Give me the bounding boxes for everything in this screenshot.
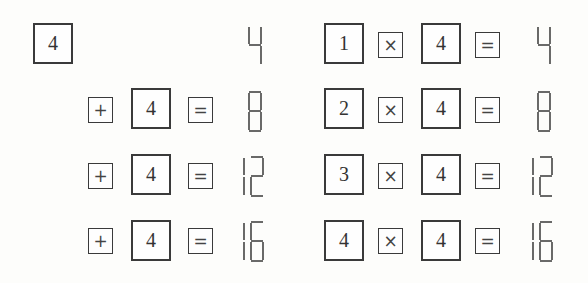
display-result-8: [244, 90, 268, 134]
seven-segment-digit-8: [538, 92, 550, 131]
key-times[interactable]: ×: [378, 32, 403, 58]
equals-icon: =: [480, 35, 494, 55]
key-times[interactable]: ×: [378, 97, 403, 123]
seven-segment-number-16: [533, 222, 552, 261]
display-result-8: [533, 90, 557, 134]
key-label: 4: [146, 97, 156, 120]
key-4[interactable]: 4: [421, 88, 461, 129]
key-4[interactable]: 4: [421, 23, 461, 64]
key-equals[interactable]: =: [188, 228, 213, 254]
key-multiplier[interactable]: 3: [324, 154, 364, 195]
key-plus[interactable]: +: [88, 163, 113, 189]
seven-segment-number-12: [533, 157, 552, 196]
seven-segment-digit-4: [538, 27, 550, 64]
equals-icon: =: [480, 166, 494, 186]
equals-icon: =: [480, 100, 494, 120]
plus-icon: +: [93, 166, 107, 186]
key-equals[interactable]: =: [188, 163, 213, 189]
key-times[interactable]: ×: [378, 228, 403, 254]
times-icon: ×: [383, 100, 397, 120]
times-icon: ×: [383, 35, 397, 55]
key-4[interactable]: 4: [421, 220, 461, 261]
times-icon: ×: [383, 231, 397, 251]
display-result-4: [244, 24, 268, 68]
plus-icon: +: [93, 231, 107, 251]
equals-icon: =: [193, 100, 207, 120]
display-result-16: [240, 220, 270, 264]
key-4[interactable]: 4: [131, 88, 171, 129]
display-result-16: [529, 220, 559, 264]
key-label: 4: [436, 97, 446, 120]
key-label: 3: [339, 163, 349, 186]
key-times[interactable]: ×: [378, 163, 403, 189]
key-multiplier[interactable]: 4: [324, 220, 364, 261]
key-label: 4: [436, 163, 446, 186]
key-label: 4: [436, 229, 446, 252]
key-plus[interactable]: +: [88, 228, 113, 254]
key-equals[interactable]: =: [188, 97, 213, 123]
equals-icon: =: [193, 231, 207, 251]
key-plus[interactable]: +: [88, 97, 113, 123]
key-4[interactable]: 4: [131, 154, 171, 195]
plus-icon: +: [93, 100, 107, 120]
display-result-12: [240, 155, 270, 199]
key-multiplier[interactable]: 2: [324, 88, 364, 129]
seven-segment-number-12: [244, 157, 263, 196]
seven-segment-digit-4: [249, 27, 261, 64]
key-equals[interactable]: =: [475, 228, 500, 254]
times-icon: ×: [383, 166, 397, 186]
key-label: 1: [339, 32, 349, 55]
key-label: 4: [146, 229, 156, 252]
key-label: 2: [339, 97, 349, 120]
key-equals[interactable]: =: [475, 32, 500, 58]
equals-icon: =: [480, 231, 494, 251]
key-label: 4: [48, 32, 58, 55]
seven-segment-number-16: [244, 222, 263, 261]
key-equals[interactable]: =: [475, 97, 500, 123]
key-label: 4: [436, 32, 446, 55]
key-label: 4: [339, 229, 349, 252]
equals-icon: =: [193, 166, 207, 186]
display-result-12: [529, 155, 559, 199]
display-result-4: [533, 24, 557, 68]
seven-segment-digit-8: [249, 92, 261, 131]
key-4[interactable]: 4: [33, 23, 73, 64]
key-4[interactable]: 4: [421, 154, 461, 195]
key-label: 4: [146, 163, 156, 186]
key-4[interactable]: 4: [131, 220, 171, 261]
key-equals[interactable]: =: [475, 163, 500, 189]
key-multiplier[interactable]: 1: [324, 23, 364, 64]
